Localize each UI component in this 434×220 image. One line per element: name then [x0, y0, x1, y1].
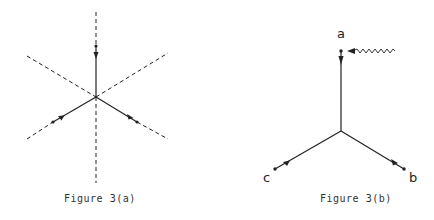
dot-a — [339, 49, 342, 52]
caption-figure-3a: Figure 3(a) — [64, 193, 136, 204]
wavy-line — [353, 49, 395, 53]
dot-b — [402, 167, 405, 170]
figure-3a-diagram — [0, 0, 434, 220]
arrow-down-icon — [94, 52, 99, 59]
vertex-label-b: b — [409, 170, 417, 185]
dot-c — [273, 167, 276, 170]
dot-lower-right — [135, 120, 138, 123]
dashed-upper-right — [96, 53, 168, 97]
vertex-label-a: a — [337, 26, 345, 41]
figure-3a — [27, 12, 168, 183]
dashed-lower-left — [27, 122, 53, 139]
arrow-down-icon — [339, 56, 344, 65]
vertex-label-c: c — [263, 170, 270, 185]
dot-top — [94, 44, 97, 47]
dashed-lower-right — [137, 122, 168, 139]
dot-lower-left — [51, 120, 54, 123]
dashed-upper-left — [27, 56, 96, 97]
caption-figure-3b: Figure 3(b) — [320, 193, 392, 204]
wavy-arrow-left-icon — [347, 48, 355, 54]
figure-3b — [273, 48, 405, 171]
solid-lower-left — [53, 97, 96, 122]
